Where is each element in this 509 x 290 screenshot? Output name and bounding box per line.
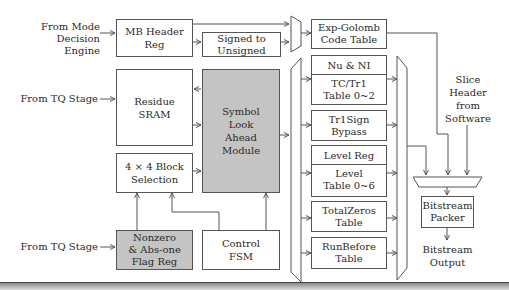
block-label: & Abs-one	[128, 244, 181, 256]
residue-sram-block: Residue SRAM	[116, 69, 193, 146]
input-label-slice-header-from-software: Slice Header from Software	[440, 73, 496, 125]
block-label: Look	[229, 118, 254, 131]
block-label: RunBefore	[322, 241, 376, 253]
runbefore-table-block: RunBefore Table	[311, 237, 387, 269]
label-line: Header	[440, 86, 496, 99]
block-label: Table 0~2	[323, 90, 375, 102]
block-label: Residue	[134, 95, 175, 108]
label-line: Decision Engine	[18, 33, 100, 57]
label-line: Software	[440, 112, 496, 125]
label-line: Output	[415, 256, 480, 269]
nu-ni-tc-tr1-table-block: Nu & NI TC/Tr1 Table 0~2	[311, 55, 387, 105]
input-label-tq-stage-bottom: From TQ Stage	[18, 241, 98, 253]
block-label: Ahead	[225, 131, 257, 144]
tr1sign-bypass-block: Tr1Sign Bypass	[311, 110, 387, 141]
exp-golomb-code-table-block: Exp-Golomb Code Table	[311, 19, 387, 49]
block-label: Module	[222, 144, 260, 157]
control-fsm-block: Control FSM	[202, 230, 280, 270]
block-label: Unsigned	[217, 45, 265, 57]
block-label: 4 × 4 Block	[125, 160, 184, 173]
block-label: Reg	[145, 38, 165, 51]
label-line: from	[440, 99, 496, 112]
signed-to-unsigned-block: Signed to Unsigned	[202, 32, 281, 57]
output-label-bitstream-output: Bitstream Output	[415, 243, 480, 269]
block-label: FSM	[229, 250, 253, 263]
block-label: Tr1Sign	[329, 114, 370, 126]
input-label-mode-decision-engine: From Mode Decision Engine	[18, 21, 100, 57]
block-label: Table 0~6	[323, 180, 375, 192]
label-line: From Mode	[18, 21, 100, 33]
level-reg-section: Level Reg	[312, 146, 386, 165]
block-label: Table	[335, 253, 362, 265]
totalzeros-table-block: TotalZeros Table	[311, 201, 387, 232]
level-table-section: Level Table 0~6	[323, 165, 375, 192]
mb-header-reg-block: MB Header Reg	[116, 19, 193, 57]
level-reg-level-table-block: Level Reg Level Table 0~6	[311, 145, 387, 197]
block-selection-4x4-block: 4 × 4 Block Selection	[116, 153, 193, 193]
block-label: Flag Reg	[132, 256, 178, 268]
block-label: TotalZeros	[322, 205, 376, 217]
block-label: Symbol	[222, 105, 260, 118]
block-label: Bypass	[331, 126, 367, 138]
block-label: Exp-Golomb	[318, 22, 380, 34]
nonzero-abs-one-flag-reg-block: Nonzero & Abs-one Flag Reg	[116, 230, 193, 270]
block-label: Control	[222, 237, 260, 250]
block-label: Packer	[430, 212, 465, 224]
block-label: Level	[323, 168, 375, 180]
label-line: Slice	[440, 73, 496, 86]
symbol-look-ahead-module-block: Symbol Look Ahead Module	[202, 69, 280, 193]
block-label: Bitstream	[423, 200, 473, 212]
bottom-border	[0, 282, 509, 290]
block-label: Selection	[131, 173, 178, 186]
input-label-tq-stage-top: From TQ Stage	[18, 93, 98, 105]
block-label: Table	[335, 217, 362, 229]
block-label: Signed to	[217, 33, 265, 45]
bitstream-packer-block: Bitstream Packer	[421, 196, 474, 228]
block-label: Nonzero	[133, 232, 176, 244]
block-label: TC/Tr1	[323, 78, 375, 90]
block-label: MB Header	[125, 25, 183, 38]
tc-tr1-section: TC/Tr1 Table 0~2	[323, 75, 375, 102]
nu-ni-section: Nu & NI	[312, 56, 386, 75]
label-line: Bitstream	[415, 243, 480, 256]
block-label: SRAM	[139, 108, 171, 121]
block-label: Code Table	[321, 34, 378, 46]
